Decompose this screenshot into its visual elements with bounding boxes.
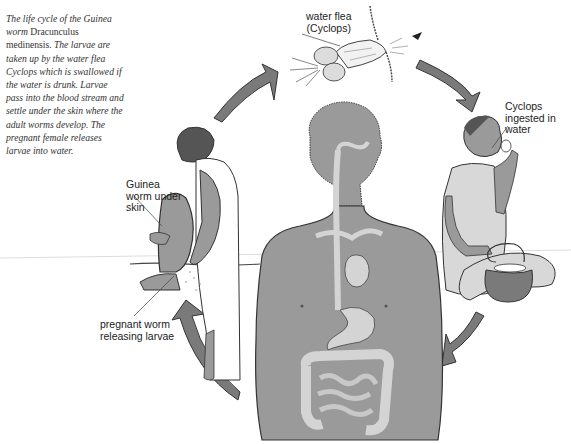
- cycle-arrow-3-icon: [442, 312, 484, 366]
- water-flea-leader-line: [302, 34, 340, 46]
- cycle-arrow-1-icon: [214, 64, 278, 122]
- label-guinea-worm-under-skin: Guinea worm under skin: [126, 179, 181, 214]
- label-water-flea: water flea (Cyclops): [306, 11, 352, 34]
- label-cyclops-ingested: Cyclops ingested in water: [505, 101, 556, 136]
- guinea-worm-life-cycle-diagram: The life cycle of the Guinea worm Dracun…: [0, 0, 571, 444]
- label-pregnant-worm-releasing-larvae: pregnant worm releasing larvae: [100, 319, 174, 342]
- cycle-arrow-2-icon: [416, 60, 480, 112]
- caption-description: The larvae are taken up by the water fle…: [6, 39, 124, 156]
- figure-caption: The life cycle of the Guinea worm Dracun…: [6, 12, 124, 157]
- center-human-figure: [256, 102, 443, 440]
- right-person-drinking-figure: [442, 116, 555, 302]
